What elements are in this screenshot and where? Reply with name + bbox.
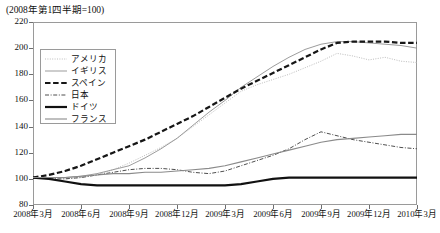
legend-item[interactable]: アメリカ [41, 53, 115, 65]
y-axis-tick-label: 180 [1, 69, 28, 78]
legend-line-swatch-icon [45, 114, 67, 124]
legend-item-label: フランス [71, 114, 107, 124]
series-line [33, 132, 417, 179]
legend-line-swatch-icon [45, 78, 67, 88]
legend-item[interactable]: スペイン [41, 77, 115, 89]
legend-item[interactable]: イギリス [41, 65, 115, 77]
y-axis-tick-label: 200 [1, 43, 28, 52]
legend-line-swatch-icon [45, 102, 67, 112]
legend-line-swatch-icon [45, 90, 67, 100]
legend-item[interactable]: ドイツ [41, 101, 115, 113]
chart-legend: アメリカイギリススペイン日本ドイツフランス [40, 49, 116, 124]
legend-line-swatch-icon [45, 66, 67, 76]
legend-item[interactable]: フランス [41, 113, 115, 125]
legend-item-label: アメリカ [71, 54, 107, 64]
legend-item-label: ドイツ [71, 102, 98, 112]
legend-item-label: イギリス [71, 66, 107, 76]
legend-line-swatch-icon [45, 54, 67, 64]
legend-item-label: 日本 [71, 90, 89, 100]
legend-item[interactable]: 日本 [41, 89, 115, 101]
x-axis-tick-label: 2010年3月 [387, 207, 440, 219]
y-axis-tick-label: 220 [1, 17, 28, 26]
y-axis-tick-label: 140 [1, 122, 28, 131]
y-axis-tick-label: 160 [1, 95, 28, 104]
series-line [33, 178, 417, 186]
legend-item-label: スペイン [71, 78, 106, 88]
y-axis-tick-label: 120 [1, 148, 28, 157]
chart-title: (2008年第1四半期=100) [6, 2, 104, 16]
y-axis-tick-label: 100 [1, 174, 28, 183]
